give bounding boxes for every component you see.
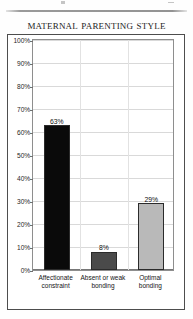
y-axis-tick-label: 20%: [2, 221, 30, 228]
y-axis-tick: [30, 156, 33, 157]
figure-maternal-parenting-style: Maternal parenting style 100%90%80%70%60…: [0, 0, 193, 319]
y-axis-tick-label: 50%: [2, 152, 30, 159]
bar-value-label: 29%: [144, 196, 158, 203]
x-axis-category-label: Affectionateconstraint: [32, 274, 79, 290]
y-axis-tick-label: 70%: [2, 106, 30, 113]
plot-area: 63%8%29%: [32, 39, 174, 271]
bar-value-label: 8%: [99, 244, 109, 251]
y-axis-tick-label: 100%: [2, 37, 30, 44]
y-axis-tick: [30, 87, 33, 88]
x-axis-category-label: Absent or weakbonding: [79, 274, 126, 290]
y-axis-tick: [30, 202, 33, 203]
page-top-rule: [6, 10, 187, 12]
figure-title: Maternal parenting style: [25, 18, 167, 35]
y-axis-tick: [30, 179, 33, 180]
x-axis-category-label: Optimalbonding: [127, 274, 174, 290]
y-axis-tick-label: 30%: [2, 198, 30, 205]
y-axis-tick: [30, 41, 33, 42]
bar: 63%: [44, 125, 70, 270]
gridline: [33, 63, 173, 64]
x-axis-category-label-line: Absent or weak: [79, 274, 126, 282]
x-axis-category-label-line: bonding: [127, 282, 174, 290]
scan-artifact: [168, 2, 174, 3]
bar: 8%: [91, 252, 117, 270]
y-axis-tick-label: 60%: [2, 129, 30, 136]
category-separator: [128, 40, 129, 270]
bar-value-label: 63%: [50, 118, 64, 125]
figure-title-container: Maternal parenting style: [0, 15, 193, 35]
x-axis-category-label-line: constraint: [32, 282, 79, 290]
x-axis-category-label-line: Affectionate: [32, 274, 79, 282]
gridline: [33, 86, 173, 87]
y-axis-tick-label: 80%: [2, 83, 30, 90]
y-axis-tick: [30, 64, 33, 65]
y-axis-tick: [30, 110, 33, 111]
y-axis-tick-label: 0%: [2, 267, 30, 274]
category-separator: [80, 40, 81, 270]
x-axis-category-label-line: bonding: [79, 282, 126, 290]
y-axis-tick-label: 90%: [2, 60, 30, 67]
bar: 29%: [138, 203, 164, 270]
y-axis-tick-label: 40%: [2, 175, 30, 182]
x-axis-category-labels: AffectionateconstraintAbsent or weakbond…: [32, 274, 174, 300]
x-axis-category-label-line: Optimal: [127, 274, 174, 282]
y-axis-tick: [30, 271, 33, 272]
y-axis-tick: [30, 225, 33, 226]
gridline: [33, 109, 173, 110]
y-axis: 100%90%80%70%60%50%40%30%20%10%0%: [0, 39, 30, 271]
y-axis-tick: [30, 133, 33, 134]
y-axis-tick: [30, 248, 33, 249]
gridline: [33, 40, 173, 41]
y-axis-tick-label: 10%: [2, 244, 30, 251]
scan-artifact: [61, 1, 65, 4]
